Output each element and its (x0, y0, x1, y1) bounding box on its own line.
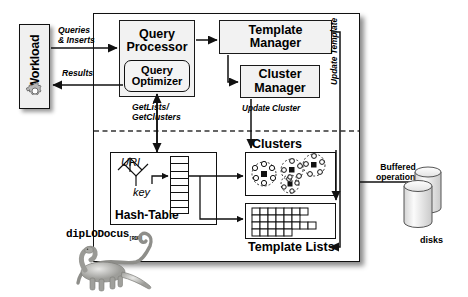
template-lists-label: Template Lists (248, 240, 335, 254)
gear-icon (25, 81, 45, 105)
clusters-label: Clusters (252, 137, 302, 151)
hash-bucket-cell (170, 185, 189, 192)
cluster-manager-box: Cluster Manager (240, 65, 320, 98)
hash-bucket-cell (170, 207, 189, 214)
hash-bucket-cell (170, 163, 189, 170)
update-cluster-label: Update Cluster (242, 104, 300, 113)
results-label: Results (62, 69, 93, 79)
template-manager-label: Template Manager (249, 24, 303, 50)
diplodocus-brand-label: dipLODocus[RDF] (66, 228, 143, 242)
hash-bucket-cell (170, 171, 189, 178)
clusters-box (245, 152, 336, 196)
key-label: key (133, 186, 150, 198)
update-template-label: Update Template (330, 18, 339, 85)
workload-box: Workload (19, 24, 50, 109)
hash-bucket-cell (170, 200, 189, 207)
hash-bucket-cell (170, 156, 189, 163)
brand-subscript: [RDF] (129, 236, 143, 242)
template-manager-box: Template Manager (219, 20, 332, 54)
buffered-operations-label: Buffered operations (372, 163, 424, 182)
getlists-getclusters-label: GetLists/ GetClusters (132, 103, 181, 122)
uri-label: URI (121, 156, 140, 168)
hash-bucket-cell (170, 178, 189, 185)
brand-name: dipLODocus (66, 228, 129, 240)
query-optimizer-label: Query Optimizer (132, 65, 183, 87)
hash-bucket-cell (170, 192, 189, 199)
template-lists-box (245, 203, 336, 239)
hash-bucket-column (170, 156, 189, 214)
query-processor-label: Query Processor (120, 28, 194, 54)
queries-inserts-label: Queries & Inserts (58, 26, 95, 45)
disks-label: disks (420, 235, 443, 245)
diagram-canvas: Workload Query Processor Query Optimizer… (0, 0, 468, 297)
cluster-manager-label: Cluster Manager (254, 68, 305, 94)
query-optimizer-box: Query Optimizer (124, 60, 190, 92)
